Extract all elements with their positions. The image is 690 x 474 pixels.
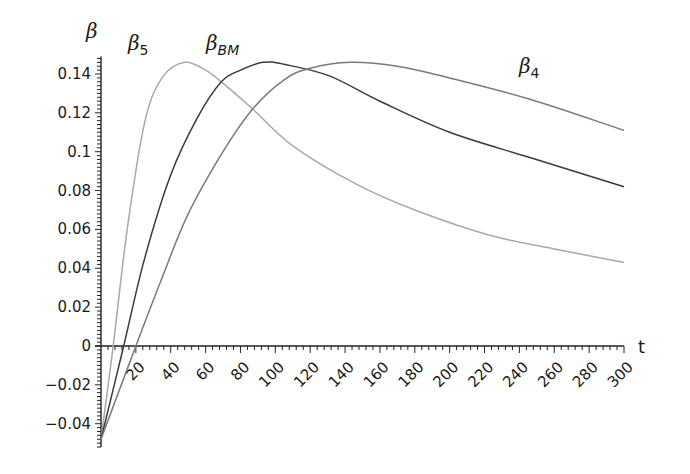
y-axis: −0.04−0.0200.020.040.060.080.10.120.14 xyxy=(45,57,101,448)
series-label-β5: β5 xyxy=(127,31,148,58)
line-chart: −0.04−0.0200.020.040.060.080.10.120.14 2… xyxy=(0,0,690,474)
series-labels: β5βBMβ4 xyxy=(127,31,540,81)
x-tick-label: 280 xyxy=(569,358,602,391)
y-tick-label: 0.06 xyxy=(58,220,91,238)
x-axis-label: t xyxy=(638,336,645,357)
x-tick-label: 240 xyxy=(499,358,532,391)
x-tick-label: 120 xyxy=(290,358,323,391)
y-tick-label: −0.02 xyxy=(45,376,91,394)
x-tick-label: 300 xyxy=(604,358,637,391)
x-tick-label: 80 xyxy=(227,358,253,384)
y-tick-label: 0.1 xyxy=(67,143,91,161)
y-tick-label: −0.04 xyxy=(45,415,91,433)
y-tick-label: 0.04 xyxy=(58,259,91,277)
y-tick-label: 0.02 xyxy=(58,298,91,316)
x-tick-label: 100 xyxy=(255,358,288,391)
y-tick-label: 0 xyxy=(81,337,91,355)
y-tick-label: 0.08 xyxy=(58,182,91,200)
x-tick-label: 200 xyxy=(429,358,462,391)
x-tick-label: 40 xyxy=(157,358,183,384)
y-tick-label: 0.14 xyxy=(58,65,91,83)
series-label-β4: β4 xyxy=(518,54,540,81)
y-axis-label: β xyxy=(85,19,98,43)
x-tick-label: 160 xyxy=(360,358,393,391)
y-tick-label: 0.12 xyxy=(58,104,91,122)
x-tick-label: 140 xyxy=(325,358,358,391)
x-tick-label: 260 xyxy=(534,358,567,391)
x-tick-label: 180 xyxy=(395,358,428,391)
x-tick-label: 60 xyxy=(192,358,218,384)
series-label-βBM: βBM xyxy=(205,31,239,58)
x-axis: 2040608010012014016018020022024026028030… xyxy=(95,346,637,391)
x-tick-label: 220 xyxy=(464,358,497,391)
